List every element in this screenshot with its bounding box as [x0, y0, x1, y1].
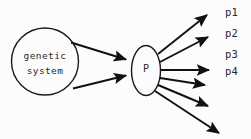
- process-node-label: P: [143, 63, 149, 74]
- output-edge-p2: [160, 37, 208, 62]
- genetic-system-label-line1: genetic: [24, 50, 67, 61]
- output-edge-p4: [160, 78, 205, 85]
- input-edge-lower: [73, 76, 126, 89]
- output-edge-5: [158, 85, 208, 106]
- diagram-canvas: genetic system P p1 p2 p3 p4: [0, 0, 251, 139]
- output-edge-p1: [158, 15, 207, 54]
- genetic-system-label-line2: system: [27, 65, 64, 76]
- output-label-p2: p2: [225, 27, 238, 39]
- output-label-p4: p4: [225, 65, 238, 77]
- diagram-svg: genetic system P p1 p2 p3 p4: [0, 0, 251, 139]
- genetic-system-node: [12, 28, 79, 95]
- output-label-p3: p3: [225, 48, 238, 60]
- output-label-p1: p1: [225, 6, 238, 18]
- input-edge-upper: [71, 43, 126, 60]
